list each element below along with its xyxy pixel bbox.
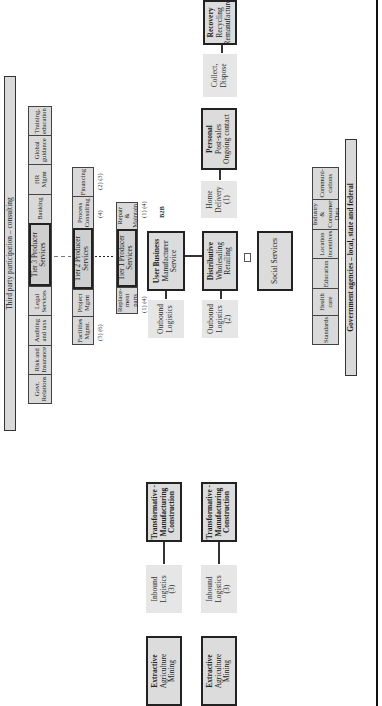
cell-training-education: Training, education	[29, 107, 51, 135]
cell-facilities-mgmt: Facilities Mgmt.	[73, 316, 93, 344]
arrow-inbound-transform-bottom	[218, 542, 220, 564]
extractive-box-top: Extractive Agriculture Mining	[146, 636, 182, 706]
cell-auditing-taxes: Auditing and taxs	[29, 315, 51, 344]
outbound-logistics-box-bottom: Outbound Logistics (2)	[202, 300, 238, 338]
cell-process-consulting: Process Consulting	[73, 196, 93, 228]
arrow-home-personal	[219, 170, 221, 180]
cell-hr-mgmt: HR Mgmt	[29, 164, 51, 193]
dashed-connector-tier3-tier2	[54, 256, 71, 257]
social-services-box: Social Services	[257, 231, 293, 291]
user-business-box: User Business Manufacturer Service	[147, 231, 185, 291]
arrow-collect-recovery	[221, 45, 223, 53]
cell-industry-consumer-data: Industry & Consumer Data	[313, 199, 338, 229]
supply-chain-diagram: Third party participation – consulting G…	[0, 0, 382, 706]
distributive-box: Distributive Wholesaling Retailing	[202, 231, 238, 291]
recovery-box: Recovery Recycling Remanufacture	[203, 0, 237, 45]
arrow-inbound-transform-top	[163, 542, 165, 564]
transformative-box-bottom: Transformative - Manufacturing Construct…	[201, 482, 237, 542]
extractive-box-bottom: Extractive Agriculture Mining	[201, 636, 237, 706]
producer-services-tier1-row: Replace-ment parts Tier 1 Producer Servi…	[116, 202, 138, 314]
cell-location-incentives: Location incentives	[313, 229, 338, 259]
third-party-label: Third party participation – consulting	[6, 197, 15, 309]
cell-tier2-producer-services: Tier 2 Producer Services	[73, 228, 93, 288]
note-tier2-2-3: (2) (3)	[96, 173, 103, 190]
arrow-outbound-distributive	[220, 291, 222, 299]
b2b-label: B2B	[158, 206, 165, 218]
cell-repair-maintain: Repair & Maintain	[117, 203, 137, 229]
cell-health-care: Health care	[313, 288, 338, 315]
cell-banking: Banking	[29, 194, 51, 223]
cell-standards: Standards	[313, 315, 338, 344]
outbound-logistics-box-top: Outbound Logistics	[148, 300, 184, 338]
cell-communications: Communi-cations	[313, 168, 338, 199]
note-tier2-4: (4)	[96, 210, 103, 218]
cell-global-guidance: Global guidance	[29, 135, 51, 164]
producer-services-tier2-row: Facilities Mgmt. Project Mgmt Tier 2 Pro…	[72, 167, 94, 345]
transformative-box-top: Transformative - Manufacturing Construct…	[146, 482, 182, 542]
note-tier1-repair: (1) (4)	[140, 201, 147, 218]
dotted-arrow-tier2-tier1	[95, 256, 115, 257]
note-tier2-5-6: (5) (6)	[96, 324, 103, 341]
inbound-logistics-box-bottom: Inbound Logistics (3)	[201, 565, 237, 613]
home-delivery-box: Home Delivery (1)	[201, 181, 237, 218]
cell-financing: Financing	[73, 168, 93, 196]
cell-risk-insurance: Risk and Insurance	[29, 345, 51, 374]
cell-replacement-parts: Replace-ment parts	[117, 287, 137, 313]
arrow-outbound-userbusiness	[165, 291, 167, 299]
cell-tier1-producer-services: Tier 1 Producer Services	[117, 229, 137, 287]
cell-govt-relations: Govt. Relations	[29, 374, 51, 403]
cell-education: Education	[313, 258, 338, 288]
government-services-row: Standards Health care Education Location…	[312, 167, 339, 345]
cell-tier3-producer-services: Tier 3 Producer Services	[29, 223, 51, 287]
inbound-logistics-box-top: Inbound Logistics (3)	[146, 565, 182, 613]
cell-project-mgmt: Project Mgmt	[73, 289, 93, 317]
government-banner: Government agencies – local, state and f…	[345, 139, 357, 376]
note-tier1-replacement: (1) (4)	[140, 296, 147, 313]
equivalence-symbol	[244, 253, 251, 262]
collect-dispose-box: Collect, Dispose	[203, 54, 237, 97]
third-party-banner: Third party participation – consulting	[4, 76, 16, 431]
personal-box: Personal Post-sales Ongoing contact	[201, 108, 237, 170]
cell-legal-services: Legal Services	[29, 286, 51, 315]
double-arrow-user-distributive	[185, 256, 203, 258]
page-border-line	[376, 0, 378, 706]
producer-services-tier3-row: Govt. Relations Risk and Insurance Audit…	[28, 106, 52, 404]
